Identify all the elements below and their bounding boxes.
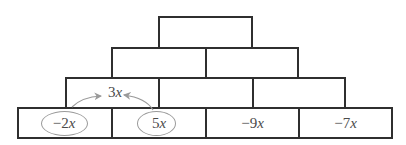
number-pyramid: −2x 5x −9x −7x 3x — [0, 0, 406, 145]
brick-r3-c2 — [158, 77, 254, 109]
brick-r4-c4: −7x — [298, 107, 393, 139]
circle-highlight-5x — [137, 111, 176, 136]
circle-highlight-minus-2x — [41, 111, 88, 136]
brick-r4-c3: −9x — [205, 107, 300, 139]
brick-r2-c1 — [111, 47, 207, 79]
brick-value: −9x — [241, 115, 264, 132]
brick-r2-c2 — [205, 47, 299, 79]
brick-r1-c1 — [158, 16, 253, 49]
sum-label: 3x — [105, 84, 125, 101]
brick-value: −7x — [334, 115, 357, 132]
brick-r3-c3 — [252, 77, 346, 109]
